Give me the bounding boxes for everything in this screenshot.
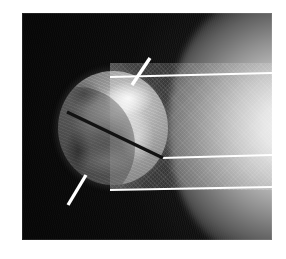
upper-tick-mark xyxy=(132,58,150,85)
lower-guide-line xyxy=(110,187,272,190)
lower-tick-mark xyxy=(68,175,86,205)
radial-cut-line xyxy=(67,112,163,158)
figure-container: Dark grainy sky with an illuminated circ… xyxy=(0,0,286,259)
image-plate xyxy=(22,13,272,240)
upper-guide-line xyxy=(110,73,272,77)
annotation-overlay xyxy=(22,13,272,240)
middle-guide-line xyxy=(161,155,272,158)
